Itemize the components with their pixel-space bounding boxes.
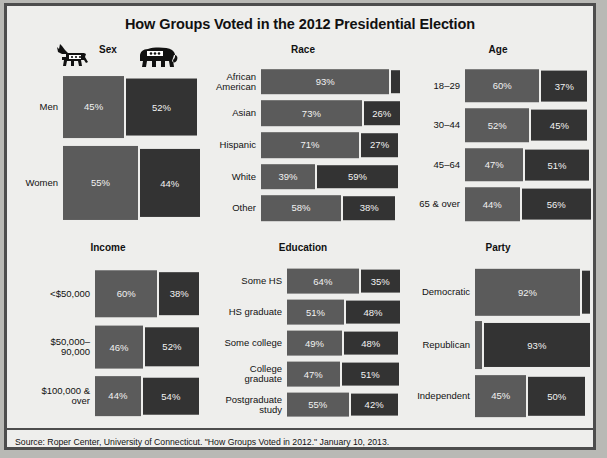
mosaic-row: College graduate47%51% (203, 358, 403, 389)
bar-republican: 59% (317, 165, 398, 189)
bar-republican (391, 70, 399, 94)
bar-democratic (475, 321, 482, 369)
bar-republican: 44% (140, 149, 200, 217)
mosaic-row: Women55%44% (13, 142, 203, 224)
bar-republican: 38% (343, 196, 395, 220)
bar-democratic: 51% (287, 300, 344, 325)
bar-republican: 45% (531, 110, 587, 141)
panel-title-income: Income (13, 242, 203, 253)
bar-democratic: 44% (465, 188, 520, 222)
panel-title-race: Race (203, 44, 403, 55)
row-bars: 93% (261, 66, 399, 98)
bar-republican: 35% (361, 270, 400, 293)
mosaic-row: Democratic92% (403, 266, 593, 318)
row-bars: 46%52% (95, 321, 199, 372)
mosaic-row: Hispanic71%27% (203, 129, 403, 161)
bar-republican: 52% (145, 327, 199, 366)
row-label: Republican (403, 318, 475, 372)
mosaic-row: White39%59% (203, 161, 403, 193)
bar-republican: 42% (351, 393, 398, 416)
mosaic-row: $50,000– 90,00046%52% (13, 321, 203, 372)
row-bars: 39%59% (261, 161, 399, 193)
row-label: Men (13, 72, 63, 142)
bar-republican: 51% (342, 362, 399, 385)
bar-republican: 54% (143, 378, 199, 415)
panel-race: Race African American93%Asian73%26%Hispa… (203, 44, 403, 224)
bar-republican: 50% (528, 377, 585, 415)
row-bars: 73%26% (261, 98, 399, 130)
panel-title-sex: Sex (13, 44, 203, 55)
row-bars: 44%54% (95, 372, 199, 420)
row-label: Asian (203, 98, 261, 130)
bar-republican: 93% (484, 323, 590, 367)
mosaic-row: 65 & over44%56% (403, 185, 593, 225)
row-bars: 49%48% (287, 328, 399, 359)
panel-sex: Sex Men45%52%Women55%44% (13, 44, 203, 224)
bar-democratic: 47% (465, 148, 523, 182)
bar-republican: 27% (361, 133, 398, 157)
row-label: African American (203, 66, 261, 98)
row-label: Independent (403, 372, 475, 420)
bar-republican: 48% (346, 301, 400, 324)
panel-income: Income <$50,00060%38%$50,000– 90,00046%5… (13, 242, 203, 420)
bar-republican: 26% (364, 102, 400, 126)
mosaic-row: Postgraduate study55%42% (203, 389, 403, 420)
row-bars: 55%44% (63, 142, 199, 224)
row-bars: 45%50% (475, 372, 589, 420)
mosaic-row: Men45%52% (13, 72, 203, 142)
row-bars: 71%27% (261, 129, 399, 161)
row-bars: 47%51% (465, 145, 589, 185)
bar-democratic: 49% (287, 331, 342, 356)
mosaic-row: Republican93% (403, 318, 593, 372)
row-bars: 44%56% (465, 185, 589, 225)
row-label: 30–44 (403, 106, 465, 146)
panel-title-age: Age (403, 44, 593, 55)
bar-democratic: 46% (95, 325, 143, 368)
row-bars: 55%42% (287, 389, 399, 420)
bar-republican: 48% (344, 332, 398, 355)
bar-democratic: 60% (465, 69, 539, 103)
bar-democratic: 52% (465, 109, 529, 143)
row-label: <$50,000 (13, 266, 95, 321)
row-label: Other (203, 192, 261, 224)
bar-republican: 56% (522, 189, 591, 220)
bar-democratic: 45% (63, 76, 124, 138)
mosaic-row: Some HS64%35% (203, 266, 403, 297)
bar-democratic: 71% (261, 132, 359, 158)
bar-democratic: 45% (475, 375, 526, 417)
row-bars: 45%52% (63, 72, 199, 142)
row-bars: 58%38% (261, 192, 399, 224)
mosaic-row: HS graduate51%48% (203, 297, 403, 328)
row-bars: 60%37% (465, 66, 589, 106)
row-bars: 92% (475, 266, 589, 318)
row-bars: 51%48% (287, 297, 399, 328)
bar-democratic: 93% (261, 69, 389, 95)
row-bars: 93% (475, 318, 589, 372)
panel-education: Education Some HS64%35%HS graduate51%48%… (203, 242, 403, 420)
bar-democratic: 47% (287, 361, 340, 386)
panel-rows: Men45%52%Women55%44% (13, 72, 203, 224)
row-bars: 64%35% (287, 266, 399, 297)
panel-rows: Some HS64%35%HS graduate51%48%Some colle… (203, 266, 403, 420)
row-label: 18–29 (403, 66, 465, 106)
bar-republican: 52% (126, 78, 197, 135)
row-label: Some HS (203, 266, 287, 297)
row-label: College graduate (203, 358, 287, 389)
bar-republican (582, 271, 590, 314)
chart-frame: How Groups Voted in the 2012 Presidentia… (4, 3, 596, 450)
mosaic-row: African American93% (203, 66, 403, 98)
bar-democratic: 60% (95, 270, 157, 317)
bar-democratic: 58% (261, 195, 341, 221)
row-bars: 60%38% (95, 266, 199, 321)
mosaic-row: Asian73%26% (203, 98, 403, 130)
row-bars: 47%51% (287, 358, 399, 389)
mosaic-row: 30–4452%45% (403, 106, 593, 146)
bar-democratic: 39% (261, 164, 315, 190)
row-label: $50,000– 90,000 (13, 321, 95, 372)
panel-rows: <$50,00060%38%$50,000– 90,00046%52%$100,… (13, 266, 203, 420)
row-label: 45–64 (403, 145, 465, 185)
panel-title-party: Party (403, 242, 593, 253)
bar-democratic: 92% (475, 269, 580, 315)
row-label: $100,000 & over (13, 372, 95, 420)
bar-democratic: 64% (287, 269, 359, 294)
